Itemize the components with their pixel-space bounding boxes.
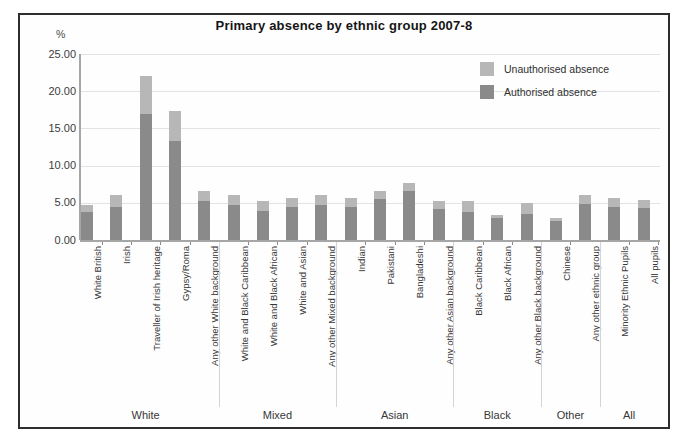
x-axis-tickmark [365,242,366,245]
bar-all-pupils-authorised [638,208,650,240]
x-axis [80,240,660,242]
bar-any-other-asian-background-unauthorised [433,201,445,209]
bar-pakistani-authorised [374,199,386,240]
y-axis-tick-label: 20.00 [34,85,76,97]
bar-any-other-white-background-authorised [198,201,210,240]
group-separator [219,242,220,407]
x-axis-tickmark [512,242,513,245]
bar-indian-unauthorised [345,198,357,207]
bar-gypsy-roma-authorised [169,141,181,240]
bar-black-caribbean-authorised [462,212,474,240]
legend-label: Authorised absence [504,86,597,98]
category-label-irish: Irish [121,246,132,264]
bar-white-and-asian-unauthorised [286,198,298,207]
x-axis-tickmark [424,242,425,245]
gridline [80,128,660,129]
page: Primary absence by ethnic group 2007-8 %… [0,0,683,439]
bar-minority-ethnic-pupils-unauthorised [608,198,620,206]
group-label-white: White [106,409,186,421]
bar-traveller-of-irish-heritage-unauthorised [140,76,152,114]
bar-any-other-ethnic-group-authorised [579,204,591,240]
x-axis-tickmark [190,242,191,245]
y-axis-tick-label: 0.00 [34,234,76,246]
x-axis-tickmark [658,242,659,245]
bar-black-caribbean-unauthorised [462,201,474,212]
bar-white-british-unauthorised [81,205,93,212]
category-label-minority-ethnic-pupils: Minority Ethnic Pupils [619,246,630,337]
category-label-all-pupils: All pupils [649,246,660,284]
bar-traveller-of-irish-heritage-authorised [140,114,152,240]
category-label-pakistani: Pakistani [385,246,396,285]
bar-all-pupils-unauthorised [638,200,650,208]
category-label-white-and-asian: White and Asian [297,246,308,315]
bar-bangladeshi-authorised [403,191,415,240]
category-label-indian: Indian [356,246,367,272]
gridline [80,54,660,55]
group-separator [336,242,337,407]
category-label-white-british: White British [92,246,103,299]
group-label-all: All [589,409,669,421]
x-axis-tickmark [307,242,308,245]
bar-any-other-mixed-background-unauthorised [315,195,327,205]
legend-item-authorised-absence: Authorised absence [480,85,597,99]
bar-any-other-mixed-background-authorised [315,205,327,240]
bar-black-african-authorised [491,218,503,240]
bar-white-british-authorised [81,212,93,240]
x-axis-tickmark [483,242,484,245]
x-axis-tickmark [395,242,396,245]
bar-white-and-black-caribbean-authorised [228,205,240,240]
y-axis-tick-label: 25.00 [34,48,76,60]
y-axis-tick-label: 10.00 [34,159,76,171]
gridline [80,166,660,167]
group-separator [453,242,454,407]
bar-irish-unauthorised [110,195,122,206]
authorised-absence-swatch [480,85,494,99]
y-axis-tick-label: 15.00 [34,122,76,134]
group-separator [541,242,542,407]
group-separator [600,242,601,407]
bar-white-and-asian-authorised [286,207,298,240]
category-label-black-caribbean: Black Caribbean [473,246,484,316]
category-label-white-and-black-caribbean: White and Black Caribbean [239,246,250,361]
bar-indian-authorised [345,207,357,240]
x-axis-tickmark [570,242,571,245]
bar-any-other-asian-background-authorised [433,209,445,240]
legend-item-unauthorised-absence: Unauthorised absence [480,62,609,76]
group-label-mixed: Mixed [237,409,317,421]
chart-layer: 0.005.0010.0015.0020.0025.00White Britis… [0,0,683,439]
unauthorised-absence-swatch [480,62,494,76]
bar-any-other-ethnic-group-unauthorised [579,195,591,205]
category-label-gypsy-roma: Gypsy/Roma [180,246,191,301]
bar-bangladeshi-unauthorised [403,183,415,190]
category-label-white-and-black-african: White and Black African [268,246,279,346]
y-axis-tick-label: 5.00 [34,196,76,208]
x-axis-tickmark [629,242,630,245]
bar-black-african-unauthorised [491,215,503,217]
x-axis-tickmark [102,242,103,245]
bar-any-other-black-background-authorised [521,214,533,240]
x-axis-tickmark [160,242,161,245]
category-label-chinese: Chinese [561,246,572,281]
gridline [80,203,660,204]
legend-label: Unauthorised absence [504,63,609,75]
bar-any-other-white-background-unauthorised [198,191,210,201]
bar-white-and-black-caribbean-unauthorised [228,195,240,205]
bar-irish-authorised [110,207,122,240]
bar-white-and-black-african-authorised [257,211,269,240]
bar-white-and-black-african-unauthorised [257,201,269,211]
bar-gypsy-roma-unauthorised [169,111,181,142]
category-label-traveller-of-irish-heritage: Traveller of Irish heritage [151,246,162,351]
category-label-black-african: Black African [502,246,513,301]
bar-any-other-black-background-unauthorised [521,203,533,214]
x-axis-tickmark [131,242,132,245]
category-label-bangladeshi: Bangladeshi [414,246,425,298]
x-axis-tickmark [248,242,249,245]
bar-minority-ethnic-pupils-authorised [608,207,620,240]
bar-pakistani-unauthorised [374,191,386,199]
bar-chinese-unauthorised [550,218,562,221]
group-label-black: Black [457,409,537,421]
group-label-asian: Asian [355,409,435,421]
bar-chinese-authorised [550,221,562,240]
x-axis-tickmark [277,242,278,245]
